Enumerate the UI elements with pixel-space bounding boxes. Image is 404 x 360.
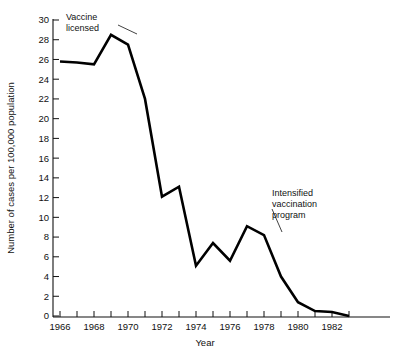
line-chart: 024681012141618202224262830 196619681970… <box>0 0 404 360</box>
y-axis-title: Number of cases per 100,000 population <box>5 82 16 254</box>
y-tick-label: 28 <box>38 34 49 45</box>
y-tick-label: 30 <box>38 14 49 25</box>
x-tick-label: 1978 <box>253 321 274 332</box>
y-tick-label: 0 <box>44 310 49 321</box>
chart-container: 024681012141618202224262830 196619681970… <box>0 0 404 360</box>
y-tick-label: 6 <box>44 251 49 262</box>
y-tick-label: 8 <box>44 231 49 242</box>
y-tick-label: 14 <box>38 172 49 183</box>
x-tick-label: 1972 <box>151 321 172 332</box>
x-axis-title: Year <box>195 337 214 348</box>
x-tick-label: 1980 <box>287 321 308 332</box>
y-tick-label: 24 <box>38 74 49 85</box>
chart-background <box>0 0 404 360</box>
x-tick-label: 1966 <box>49 321 70 332</box>
y-tick-label: 4 <box>44 271 49 282</box>
y-tick-label: 20 <box>38 113 49 124</box>
y-tick-label: 10 <box>38 212 49 223</box>
x-tick-label: 1976 <box>219 321 240 332</box>
y-tick-label: 2 <box>44 291 49 302</box>
x-tick-label: 1970 <box>117 321 138 332</box>
y-tick-label: 18 <box>38 133 49 144</box>
x-tick-label: 1968 <box>83 321 104 332</box>
y-tick-label: 22 <box>38 93 49 104</box>
x-tick-label: 1974 <box>185 321 206 332</box>
y-tick-label: 26 <box>38 54 49 65</box>
x-tick-label: 1982 <box>321 321 342 332</box>
y-tick-label: 16 <box>38 153 49 164</box>
annotation-text-1: Vaccinelicensed <box>66 12 99 33</box>
y-tick-label: 12 <box>38 192 49 203</box>
